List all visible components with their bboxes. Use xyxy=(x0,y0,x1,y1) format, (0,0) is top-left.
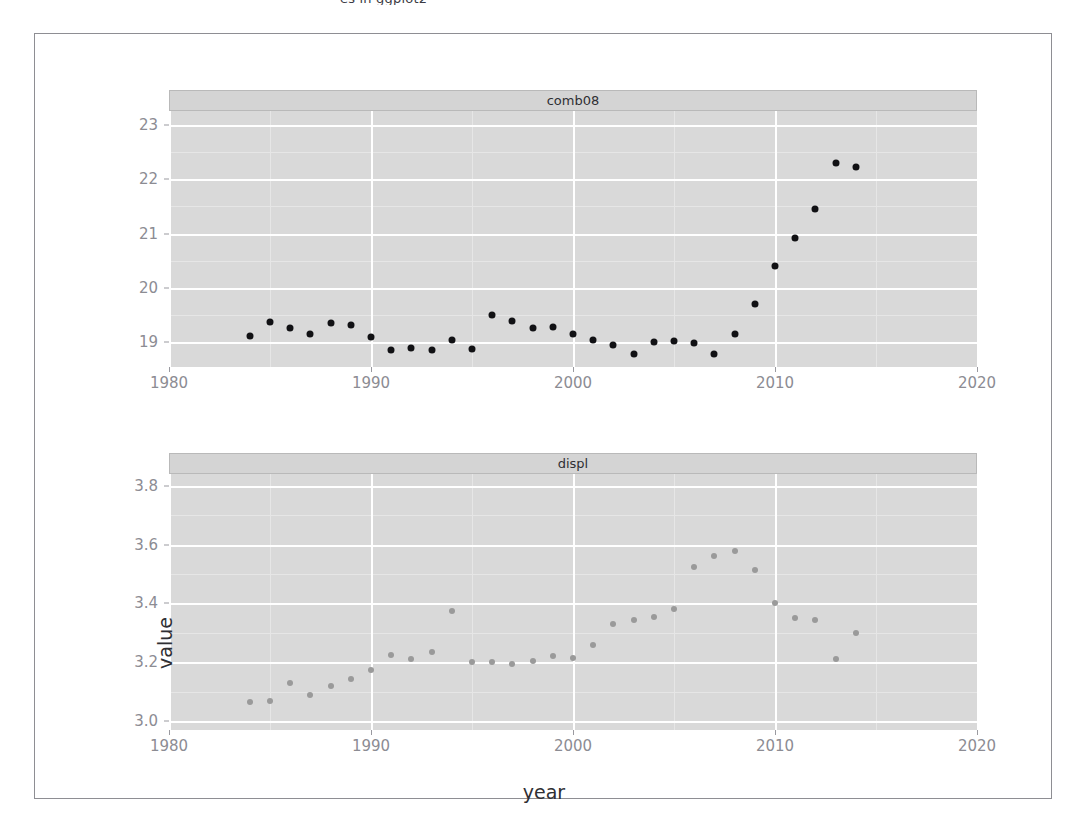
y-axis-tick-label: 19 xyxy=(139,333,158,351)
data-point xyxy=(751,301,758,308)
data-point xyxy=(347,321,354,328)
plot-area-comb08 xyxy=(169,111,977,367)
gridline-minor-vertical xyxy=(876,111,877,367)
facet-strip-comb08: comb08 xyxy=(169,90,977,111)
data-point xyxy=(711,351,718,358)
x-axis-tick-mark xyxy=(371,367,372,372)
data-point xyxy=(853,630,859,636)
data-point xyxy=(671,337,678,344)
y-axis-tick-mark xyxy=(164,233,169,234)
gridline-major-vertical xyxy=(573,111,575,367)
gridline-minor-vertical xyxy=(674,474,675,730)
y-axis-tick-label: 21 xyxy=(139,225,158,243)
data-point xyxy=(408,656,414,662)
data-point xyxy=(630,351,637,358)
data-point xyxy=(792,234,799,241)
y-axis-tick-label: 3.4 xyxy=(134,594,158,612)
data-point xyxy=(368,667,374,673)
data-point xyxy=(570,330,577,337)
data-point xyxy=(772,263,779,270)
data-point xyxy=(509,317,516,324)
data-point xyxy=(469,346,476,353)
x-axis-tick-mark xyxy=(977,730,978,735)
x-axis-tick-mark xyxy=(573,730,574,735)
y-axis-tick-label: 23 xyxy=(139,116,158,134)
x-axis-tick-label: 2010 xyxy=(756,737,794,755)
y-axis-tick-mark xyxy=(164,179,169,180)
data-point xyxy=(307,331,314,338)
y-axis-tick-mark xyxy=(164,288,169,289)
y-axis-tick-mark xyxy=(164,124,169,125)
data-point xyxy=(772,600,778,606)
x-axis-tick-label: 2000 xyxy=(554,737,592,755)
gridline-major-vertical xyxy=(573,474,575,730)
data-point xyxy=(287,680,293,686)
x-axis-tick-mark xyxy=(573,367,574,372)
x-axis-tick-label: 2010 xyxy=(756,374,794,392)
gridline-major-vertical xyxy=(371,474,373,730)
facet-strip-displ: displ xyxy=(169,453,977,474)
gridline-minor-vertical xyxy=(674,111,675,367)
data-point xyxy=(246,332,253,339)
x-axis-tick-mark xyxy=(169,367,170,372)
y-axis-tick-mark xyxy=(164,544,169,545)
data-point xyxy=(650,339,657,346)
data-point xyxy=(711,553,717,559)
data-point xyxy=(812,617,818,623)
data-point xyxy=(509,661,515,667)
x-axis-tick-label: 1980 xyxy=(150,737,188,755)
data-point xyxy=(833,656,839,662)
facet-strip-label-comb08: comb08 xyxy=(547,94,600,107)
x-axis-tick-label: 1990 xyxy=(352,374,390,392)
x-axis-tick-mark xyxy=(775,367,776,372)
facet-strip-label-displ: displ xyxy=(558,457,589,470)
y-axis-title: value xyxy=(154,617,176,669)
data-point xyxy=(812,206,819,213)
data-point xyxy=(792,615,798,621)
data-point xyxy=(489,312,496,319)
data-point xyxy=(429,649,435,655)
x-axis-tick-label: 2020 xyxy=(958,374,996,392)
y-axis-tick-label: 3.0 xyxy=(134,712,158,730)
y-axis-tick-label: 22 xyxy=(139,170,158,188)
data-point xyxy=(388,346,395,353)
x-axis-tick-mark xyxy=(169,730,170,735)
data-point xyxy=(327,320,334,327)
data-point xyxy=(267,318,274,325)
gridline-minor-vertical xyxy=(472,111,473,367)
gridline-major-vertical xyxy=(169,474,171,730)
data-point xyxy=(368,334,375,341)
data-point xyxy=(671,606,677,612)
data-point xyxy=(590,337,597,344)
data-point xyxy=(570,655,576,661)
data-point xyxy=(529,324,536,331)
x-axis-tick-label: 2000 xyxy=(554,374,592,392)
x-axis-tick-mark xyxy=(977,367,978,372)
data-point xyxy=(267,698,273,704)
data-point xyxy=(550,653,556,659)
data-point xyxy=(449,608,455,614)
data-point xyxy=(307,692,313,698)
plot-area-displ xyxy=(169,474,977,730)
y-axis-tick-mark xyxy=(164,721,169,722)
data-point xyxy=(348,676,354,682)
data-point xyxy=(752,567,758,573)
gridline-minor-vertical xyxy=(270,111,271,367)
data-point xyxy=(247,699,253,705)
x-axis-title: year xyxy=(35,781,1053,803)
data-point xyxy=(530,658,536,664)
data-point xyxy=(691,340,698,347)
data-point xyxy=(731,330,738,337)
x-axis-tick-label: 2020 xyxy=(958,737,996,755)
x-axis-tick-mark xyxy=(775,730,776,735)
data-point xyxy=(852,164,859,171)
data-point xyxy=(631,617,637,623)
data-point xyxy=(590,642,596,648)
gridline-minor-vertical xyxy=(270,474,271,730)
y-axis-tick-mark xyxy=(164,485,169,486)
gridline-major-vertical xyxy=(169,111,171,367)
data-point xyxy=(832,159,839,166)
data-point xyxy=(610,342,617,349)
figure-frame: comb08 192021222319801990200020102020 di… xyxy=(34,33,1052,799)
gridline-minor-vertical xyxy=(876,474,877,730)
